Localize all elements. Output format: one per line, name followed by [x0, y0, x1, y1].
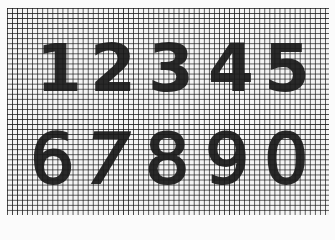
- digit-four: 4: [208, 36, 252, 102]
- digit-two: 2: [90, 36, 134, 102]
- digit-one: 1: [36, 36, 60, 102]
- digit-six: 6: [30, 124, 74, 194]
- digit-zero: 0: [264, 124, 308, 194]
- digit-seven: 7: [86, 124, 130, 194]
- digit-eight: 8: [145, 124, 189, 194]
- digit-three: 3: [148, 36, 192, 102]
- digit-nine: 9: [205, 124, 249, 194]
- digit-five: 5: [264, 36, 308, 102]
